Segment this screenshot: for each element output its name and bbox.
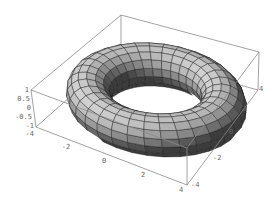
svg-text:-4: -4 bbox=[191, 181, 199, 189]
svg-text:2: 2 bbox=[243, 105, 247, 113]
torus-surface bbox=[67, 43, 247, 157]
svg-text:-2: -2 bbox=[213, 154, 221, 162]
svg-text:-4: -4 bbox=[26, 130, 34, 138]
torus-3d-plot: 1 0.5 0 -0.5 -1 -4 -2 0 2 4 -4 -2 0 2 4 bbox=[0, 0, 276, 204]
svg-text:-2: -2 bbox=[62, 143, 70, 151]
svg-text:4: 4 bbox=[259, 85, 263, 93]
svg-text:-0.5: -0.5 bbox=[15, 113, 32, 121]
svg-text:0: 0 bbox=[27, 104, 31, 112]
svg-text:4: 4 bbox=[179, 186, 183, 194]
svg-text:1: 1 bbox=[25, 86, 29, 94]
svg-text:0: 0 bbox=[102, 157, 106, 165]
svg-text:0: 0 bbox=[229, 128, 233, 136]
svg-text:0.5: 0.5 bbox=[17, 95, 30, 103]
svg-text:-1: -1 bbox=[26, 122, 34, 130]
svg-text:2: 2 bbox=[141, 171, 145, 179]
